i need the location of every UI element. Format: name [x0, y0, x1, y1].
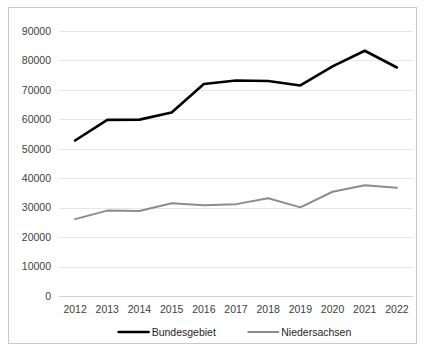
series-line-bundesgebiet: [75, 51, 397, 141]
x-axis-tick-label: 2021: [353, 303, 377, 315]
y-axis-tick-label: 80000: [22, 54, 51, 66]
y-axis-tick-label: 20000: [22, 231, 51, 243]
line-chart: 0100002000030000400005000060000700008000…: [0, 0, 426, 358]
legend-label-niedersachsen: Niedersachsen: [281, 326, 351, 338]
y-axis-tick-label: 60000: [22, 113, 51, 125]
x-axis-tick-label: 2020: [321, 303, 345, 315]
y-axis-tick-label: 30000: [22, 201, 51, 213]
x-axis-tick-label: 2019: [289, 303, 313, 315]
series-line-niedersachsen: [75, 185, 397, 219]
x-axis-tick-label: 2013: [96, 303, 120, 315]
y-axis-tick-label: 70000: [22, 84, 51, 96]
x-axis-tick-label: 2022: [385, 303, 409, 315]
y-axis-tick-label: 90000: [22, 25, 51, 37]
y-axis-tick-label: 50000: [22, 143, 51, 155]
x-axis-tick-label: 2017: [224, 303, 248, 315]
x-axis-tick-label: 2016: [192, 303, 216, 315]
chart-canvas: 0100002000030000400005000060000700008000…: [0, 0, 426, 358]
y-axis-tick-label: 0: [45, 290, 51, 302]
y-axis-tick-label: 10000: [22, 260, 51, 272]
x-axis-tick-label: 2014: [128, 303, 152, 315]
x-axis-tick-label: 2018: [257, 303, 281, 315]
legend-label-bundesgebiet: Bundesgebiet: [152, 326, 216, 338]
y-axis-tick-label: 40000: [22, 172, 51, 184]
x-axis-tick-label: 2012: [63, 303, 87, 315]
x-axis-tick-label: 2015: [160, 303, 184, 315]
